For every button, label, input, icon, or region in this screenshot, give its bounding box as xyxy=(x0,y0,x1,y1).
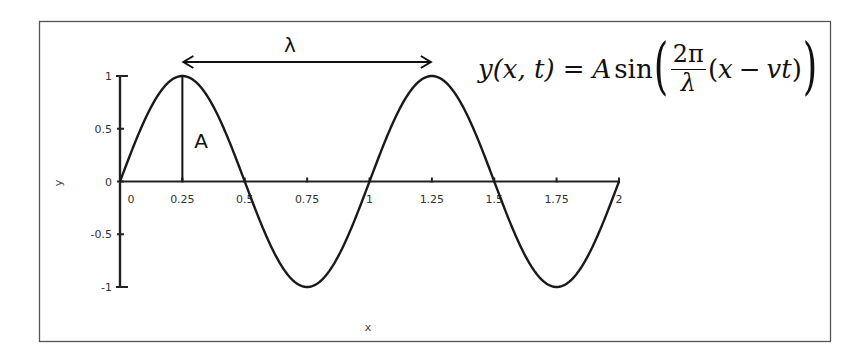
formula-inner-open: ( xyxy=(708,54,718,84)
y-tick-label: -1 xyxy=(101,281,112,294)
x-tick-label: 1 xyxy=(366,193,373,206)
x-tick-label: 2 xyxy=(616,193,623,206)
y-tick-label: -0.5 xyxy=(91,228,112,241)
formula-paren-open: ( xyxy=(653,35,668,97)
formula-vt: vt xyxy=(767,54,792,84)
formula-x: x xyxy=(718,54,733,84)
formula-amplitude: A xyxy=(592,54,611,84)
formula-minus: − xyxy=(739,54,761,84)
formula-y: y xyxy=(478,54,493,84)
fraction-denominator: λ xyxy=(681,70,696,96)
wave-diagram: 00.250.50.7511.251.51.75210.50-0.5-1 x y… xyxy=(0,0,856,357)
formula-paren-close: ) xyxy=(803,35,818,97)
amplitude-label: A xyxy=(194,129,208,153)
wave-equation: y (x, t) = A sin ( 2π λ ( x − vt ) ) xyxy=(478,38,818,100)
y-tick-label: 1 xyxy=(105,70,112,83)
y-tick-label: 0.5 xyxy=(95,123,113,136)
formula-sin: sin xyxy=(614,54,652,84)
formula-equals: = xyxy=(563,54,585,84)
x-tick-label: 0 xyxy=(128,193,135,206)
x-tick-label: 1.25 xyxy=(420,193,445,206)
formula-args: (x, t) xyxy=(493,54,555,84)
fraction-numerator: 2π xyxy=(671,42,706,69)
wavelength-label: λ xyxy=(284,33,296,57)
x-tick-label: 1.75 xyxy=(544,193,569,206)
y-tick-label: 0 xyxy=(105,176,112,189)
x-tick-label: 0.25 xyxy=(170,193,195,206)
x-tick-label: 0.75 xyxy=(295,193,320,206)
y-axis-title: y xyxy=(52,179,65,186)
formula-inner-close: ) xyxy=(792,54,802,84)
formula-fraction: 2π λ xyxy=(671,42,706,95)
x-axis-title: x xyxy=(365,321,372,334)
